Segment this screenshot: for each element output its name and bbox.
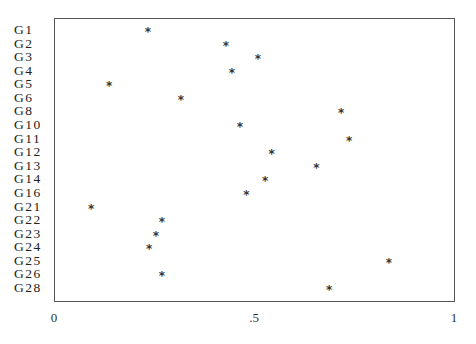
asterisk-marker-g28: * bbox=[324, 285, 334, 295]
y-label-g1: G1 bbox=[14, 23, 48, 37]
y-label-g16: G16 bbox=[14, 186, 48, 200]
y-label-g22: G22 bbox=[14, 213, 48, 227]
asterisk-marker-g3: * bbox=[253, 54, 263, 64]
asterisk-marker-g6: * bbox=[176, 95, 186, 105]
asterisk-marker-g11: * bbox=[344, 136, 354, 146]
asterisk-marker-g5: * bbox=[104, 81, 114, 91]
asterisk-marker-g2: * bbox=[221, 41, 231, 51]
y-label-g28: G28 bbox=[14, 281, 48, 295]
x-tick-label: .5 bbox=[249, 310, 259, 326]
x-tick-label: 0 bbox=[51, 310, 58, 326]
asterisk-marker-g14: * bbox=[260, 176, 270, 186]
y-label-g10: G10 bbox=[14, 118, 48, 132]
asterisk-marker-g22: * bbox=[157, 217, 167, 227]
asterisk-marker-g23: * bbox=[151, 231, 161, 241]
asterisk-marker-g13: * bbox=[311, 163, 321, 173]
x-tick-label: 1 bbox=[451, 310, 458, 326]
asterisk-marker-g24: * bbox=[144, 244, 154, 254]
scatter-chart: G1G2G3G4G5G6G8G10G11G12G13G14G16G21G22G2… bbox=[0, 0, 476, 344]
asterisk-marker-g12: * bbox=[267, 149, 277, 159]
asterisk-marker-g16: * bbox=[241, 190, 251, 200]
asterisk-marker-g4: * bbox=[227, 68, 237, 78]
asterisk-marker-g25: * bbox=[384, 258, 394, 268]
asterisk-marker-g26: * bbox=[157, 271, 167, 281]
asterisk-marker-g21: * bbox=[86, 204, 96, 214]
asterisk-marker-g1: * bbox=[143, 27, 153, 37]
asterisk-marker-g10: * bbox=[235, 122, 245, 132]
asterisk-marker-g8: * bbox=[336, 108, 346, 118]
